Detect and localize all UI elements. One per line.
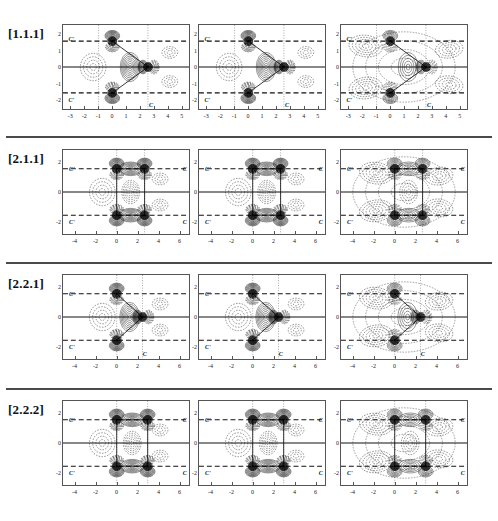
panel-3-3[interactable]: 20-2 C'C'C -4-20246 [340, 274, 468, 378]
y-tick-label: 0 [336, 64, 339, 70]
panel-2-2[interactable]: 20-2 C'C'CC -4-20246 [198, 149, 326, 253]
y-tick-label: 2 [194, 284, 197, 290]
x-axis-ticks: -4-20246 [340, 489, 468, 503]
panel-3-1[interactable]: 20-2 C'C'C -4-20246 [62, 274, 190, 378]
panel-3-2[interactable]: 20-2 C'C'C -4-20246 [198, 274, 326, 378]
y-tick-label: -2 [56, 470, 61, 476]
row-separator-2 [6, 262, 492, 264]
panel-4-3[interactable]: 20-2 C'C'CC -4-20246 [340, 400, 468, 504]
x-tick-label: 6 [314, 489, 317, 495]
x-tick-label: -2 [229, 363, 234, 369]
plot-annotation: C' [347, 470, 353, 476]
x-tick-label: -2 [93, 489, 98, 495]
x-tick-label: 6 [178, 238, 181, 244]
plot-annotation: C' [346, 36, 352, 42]
panel-1-2[interactable]: 210-1-2 C'C'C -3-2-1012345 [198, 24, 326, 128]
x-tick-label: 0 [247, 113, 250, 119]
plot-annotation: C' [205, 417, 211, 423]
x-tick-label: -4 [72, 363, 77, 369]
panel-2-1[interactable]: 20-2 C'C'CC -4-20246 [62, 149, 190, 253]
plot-row-4: [2.2.2] 20-2 C'C'CC -4-20246 20-2 C'C'CC… [0, 396, 498, 521]
x-axis-tick-marks [62, 105, 190, 109]
x-tick-label: 6 [314, 363, 317, 369]
y-axis-ticks: 20-2 [51, 149, 62, 235]
y-tick-label: 2 [336, 284, 339, 290]
plot-frame: C'C'CC [62, 400, 190, 486]
x-axis-tick-marks [62, 355, 190, 359]
x-tick-label: 0 [389, 113, 392, 119]
x-tick-label: 0 [115, 238, 118, 244]
plot-annotation: C' [347, 291, 353, 297]
y-axis-ticks: 210-1-2 [51, 24, 62, 110]
x-tick-label: 0 [393, 363, 396, 369]
plot-frame: C'C'CC [340, 400, 468, 486]
x-tick-label: -2 [229, 489, 234, 495]
plot-annotation: C' [68, 36, 74, 42]
panel-1-3[interactable]: 210-1-2 C'C'C -3-2-1012345 [340, 24, 468, 128]
y-tick-label: -2 [334, 97, 339, 103]
x-tick-label: 4 [157, 489, 160, 495]
x-tick-label: -4 [350, 238, 355, 244]
plot-frame: C'C'CC [198, 400, 326, 486]
x-tick-label: 6 [456, 489, 459, 495]
x-tick-label: 0 [393, 238, 396, 244]
y-tick-label: -2 [334, 470, 339, 476]
plot-frame: C'C'CC [340, 149, 468, 235]
plot-annotation: C' [69, 470, 75, 476]
y-tick-label: 0 [58, 64, 61, 70]
plot-annotation: C' [347, 166, 353, 172]
y-tick-label: 2 [336, 159, 339, 165]
y-axis-ticks: 20-2 [187, 400, 198, 486]
y-tick-label: -2 [192, 219, 197, 225]
row-label: [2.2.2] [8, 402, 44, 418]
x-tick-label: 4 [435, 238, 438, 244]
plot-row-2: [2.1.1] 20-2 C'C'CC -4-20246 20-2 C'C'CC… [0, 145, 498, 270]
x-tick-label: 4 [435, 363, 438, 369]
panel-4-1[interactable]: 20-2 C'C'CC -4-20246 [62, 400, 190, 504]
y-tick-label: 0 [336, 440, 339, 446]
x-tick-label: 3 [152, 113, 155, 119]
y-tick-label: 0 [194, 314, 197, 320]
y-tick-label: -2 [192, 344, 197, 350]
x-tick-label: -4 [208, 363, 213, 369]
y-tick-label: -2 [334, 219, 339, 225]
plot-annotation: C' [69, 291, 75, 297]
panel-2-3[interactable]: 20-2 C'C'CC -4-20246 [340, 149, 468, 253]
y-tick-label: 1 [194, 48, 197, 54]
x-axis-tick-marks [62, 481, 190, 485]
x-tick-label: -2 [229, 238, 234, 244]
x-tick-label: 0 [251, 489, 254, 495]
x-tick-label: 3 [430, 113, 433, 119]
x-axis-ticks: -4-20246 [62, 363, 190, 377]
plot-row-1: [1.1.1] 210-1-2 C'C'C -3-2-1012345 210-1… [0, 20, 498, 145]
plot-annotation: C' [69, 166, 75, 172]
x-tick-label: 6 [456, 363, 459, 369]
y-tick-label: -1 [192, 81, 197, 87]
y-axis-ticks: 20-2 [51, 400, 62, 486]
panel-1-1[interactable]: 210-1-2 C'C'C -3-2-1012345 [62, 24, 190, 128]
plot-frame: C'C'CC [198, 149, 326, 235]
x-tick-label: 1 [403, 113, 406, 119]
plot-annotation: C [319, 166, 323, 172]
plot-frame: C'C'C [62, 274, 190, 360]
panel-4-2[interactable]: 20-2 C'C'CC -4-20246 [198, 400, 326, 504]
y-tick-label: 2 [58, 159, 61, 165]
x-tick-label: -4 [208, 489, 213, 495]
x-tick-label: 2 [136, 238, 139, 244]
x-axis-tick-marks [198, 355, 326, 359]
plot-annotation: C [319, 470, 323, 476]
x-tick-label: 1 [261, 113, 264, 119]
plot-frame: C'C'C [340, 274, 468, 360]
y-axis-ticks: 20-2 [329, 274, 340, 360]
x-tick-label: 2 [272, 489, 275, 495]
plot-annotation: C' [69, 344, 75, 350]
x-tick-label: -2 [93, 238, 98, 244]
x-tick-label: -2 [371, 363, 376, 369]
x-axis-ticks: -4-20246 [62, 489, 190, 503]
x-axis-ticks: -4-20246 [62, 238, 190, 252]
x-tick-label: -4 [350, 363, 355, 369]
y-tick-label: 1 [58, 48, 61, 54]
plot-annotation: C' [205, 219, 211, 225]
row-label: [2.1.1] [8, 151, 44, 167]
y-tick-label: 0 [58, 440, 61, 446]
